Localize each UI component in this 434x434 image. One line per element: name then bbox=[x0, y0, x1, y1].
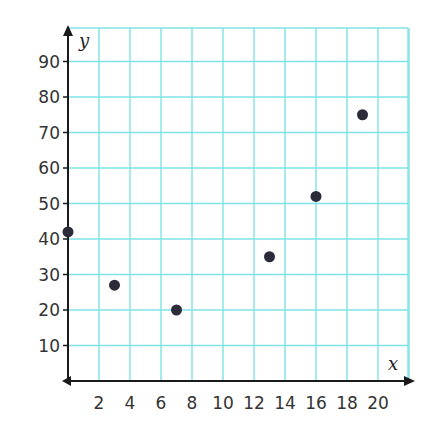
data-point bbox=[109, 280, 120, 291]
x-tick-label: 2 bbox=[94, 393, 105, 413]
x-tick-labels: 2468101214161820 bbox=[94, 393, 389, 413]
x-tick-label: 12 bbox=[243, 393, 265, 413]
data-point bbox=[357, 109, 368, 120]
data-point bbox=[311, 191, 322, 202]
axes bbox=[62, 25, 415, 386]
data-point bbox=[171, 305, 182, 316]
y-tick-label: 80 bbox=[38, 87, 60, 107]
y-tick-label: 90 bbox=[38, 52, 60, 72]
y-axis-label: y bbox=[78, 30, 90, 51]
x-tick-label: 16 bbox=[305, 393, 327, 413]
x-tick-label: 20 bbox=[367, 393, 389, 413]
y-tick-label: 60 bbox=[38, 158, 60, 178]
x-tick-label: 14 bbox=[274, 393, 296, 413]
y-tick-label: 50 bbox=[38, 194, 60, 214]
x-tick-label: 4 bbox=[125, 393, 136, 413]
data-point bbox=[63, 226, 74, 237]
grid-lines bbox=[68, 28, 409, 381]
x-axis-label: x bbox=[388, 353, 398, 374]
x-tick-label: 8 bbox=[187, 393, 198, 413]
y-axis-arrow-icon bbox=[63, 25, 73, 36]
x-axis-left-arrow-icon bbox=[62, 376, 71, 386]
data-point bbox=[264, 251, 275, 262]
y-tick-label: 10 bbox=[38, 336, 60, 356]
y-tick-labels: 102030405060708090 bbox=[38, 52, 60, 356]
scatter-chart: 2468101214161820 102030405060708090 x y bbox=[0, 0, 434, 434]
x-tick-label: 18 bbox=[336, 393, 358, 413]
y-tick-label: 20 bbox=[38, 300, 60, 320]
x-tick-label: 10 bbox=[212, 393, 234, 413]
y-tick-label: 40 bbox=[38, 229, 60, 249]
y-tick-label: 70 bbox=[38, 123, 60, 143]
x-tick-label: 6 bbox=[156, 393, 167, 413]
data-points bbox=[63, 109, 369, 315]
y-tick-label: 30 bbox=[38, 265, 60, 285]
